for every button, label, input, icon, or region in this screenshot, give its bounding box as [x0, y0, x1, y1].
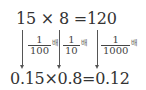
arrow-down-icon: [59, 30, 60, 66]
operand-b: 8: [59, 9, 69, 28]
equals-sign: =: [74, 9, 87, 28]
result: 120: [87, 9, 117, 28]
arrow-down-icon: [97, 30, 98, 66]
bottom-equation: 0.15×0.8=0.12: [10, 71, 130, 87]
multiply-sign: ×: [41, 9, 54, 28]
top-equation: 15×8=120: [16, 11, 117, 27]
operand-a: 15: [16, 9, 36, 28]
annotation-1-100: 1100 배: [28, 35, 58, 56]
arrow-down-icon: [22, 30, 23, 66]
annotation-1-1000: 11000 배: [101, 35, 137, 56]
annotation-1-10: 110 배: [63, 35, 87, 56]
